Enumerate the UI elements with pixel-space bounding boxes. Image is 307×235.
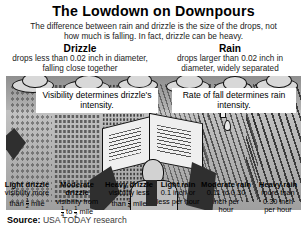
- label-light-rain-line2: less per hour: [154, 198, 202, 206]
- label-light-drizzle: Light drizzle visibility more than 1 2 m…: [2, 181, 52, 210]
- label-heavy-rain: Heavy rain more than 0.30 inch per hour: [252, 181, 304, 215]
- callout-drizzle: Visibility determines drizzle's intensit…: [36, 88, 158, 113]
- source-label: Source:: [7, 215, 41, 225]
- page-subtitle: The difference between rain and drizzle …: [24, 21, 283, 41]
- frac-prefix: than: [111, 198, 125, 207]
- label-heavy-drizzle-line2: than 1 4 mile: [103, 198, 155, 210]
- callout-rain: Rate of fall determines rain intensity.: [172, 88, 296, 113]
- label-moderate-rain-line3: hour: [200, 206, 252, 214]
- label-heavy-drizzle: Heavy drizzle visibility less than 1 4 m…: [103, 181, 155, 210]
- column-heading-rain: Rain drops larger than 0.02 inch in diam…: [160, 43, 300, 73]
- frac-suffix: mile: [31, 198, 45, 207]
- label-moderate-rain: Moderate rain 0.11 to 0.30 inch per hour: [200, 181, 252, 215]
- frac-prefix: than: [9, 198, 23, 207]
- column-title-drizzle: Drizzle: [10, 43, 150, 54]
- label-moderate-drizzle-name: Moderate drizzle: [52, 181, 102, 198]
- column-desc-rain: drops larger than 0.02 inch in diameter,…: [160, 54, 300, 73]
- label-light-drizzle-line2: than 1 2 mile: [2, 198, 52, 210]
- label-moderate-drizzle: Moderate drizzle visibility from 1 4 to …: [52, 181, 102, 218]
- page-title: The Lowdown on Downpours: [0, 3, 307, 19]
- raindrop-icon: [224, 120, 231, 131]
- fraction-half: 1 2: [26, 198, 29, 210]
- label-moderate-drizzle-line1: visibility from: [52, 198, 102, 206]
- source-line: Source: USA TODAY research: [7, 215, 127, 225]
- infographic: The Lowdown on Downpours The difference …: [0, 0, 307, 235]
- source-text: USA TODAY research: [43, 215, 127, 225]
- label-heavy-rain-line3: per hour: [252, 206, 304, 214]
- fraction-quarter: 1 4: [128, 198, 131, 210]
- column-heading-drizzle: Drizzle drops less than 0.02 inch in dia…: [10, 43, 150, 73]
- column-desc-drizzle: drops less than 0.02 inch in diameter, f…: [10, 54, 150, 73]
- frac-suffix: mile: [133, 198, 147, 207]
- label-light-rain: Light rain 0.1 inch or less per hour: [154, 181, 202, 206]
- column-title-rain: Rain: [160, 43, 300, 54]
